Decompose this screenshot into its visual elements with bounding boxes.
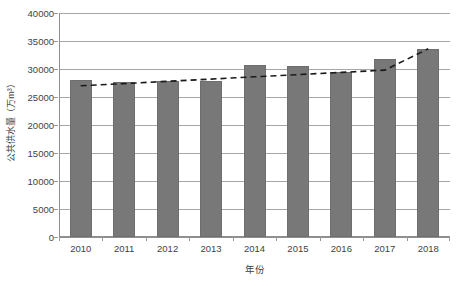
- bar-2013: [200, 81, 222, 237]
- y-axis-tick-mark: [54, 13, 58, 14]
- x-axis-tick-label: 2012: [157, 243, 178, 254]
- x-axis-tick-label: 2016: [331, 243, 352, 254]
- bar-2010: [70, 80, 92, 237]
- bar-2014: [244, 65, 266, 237]
- bar-2017: [374, 59, 396, 237]
- x-axis-tick-mark: [233, 237, 234, 241]
- x-axis-tick-label: 2018: [418, 243, 439, 254]
- y-axis-tick-mark: [54, 181, 58, 182]
- y-axis-tick-mark: [54, 209, 58, 210]
- x-axis-tick-mark: [59, 237, 60, 241]
- plot-area: [59, 13, 450, 237]
- y-axis-title-text: 公共供水量（万m³）: [4, 79, 17, 162]
- y-axis-tick-label: 30000: [28, 64, 54, 75]
- gridline: [59, 41, 450, 42]
- y-axis-tick-label: 35000: [28, 36, 54, 47]
- x-axis-title: 年份: [59, 262, 450, 276]
- bar-2012: [157, 81, 179, 237]
- y-axis-tick-label: 25000: [28, 92, 54, 103]
- x-axis-tick-label: 2011: [114, 243, 134, 254]
- bar-2016: [330, 72, 352, 237]
- y-axis-tick-mark: [54, 97, 58, 98]
- x-axis-tick-label: 2010: [70, 243, 91, 254]
- x-axis-tick-mark: [146, 237, 147, 241]
- x-axis-tick-mark: [407, 237, 408, 241]
- bar-2015: [287, 66, 309, 237]
- y-axis-tick-mark: [54, 153, 58, 154]
- y-axis-tick-label: 15000: [28, 148, 54, 159]
- y-axis-line: [59, 13, 60, 237]
- x-axis-tick-group: 201020112012201320142015201620172018: [59, 237, 450, 259]
- y-axis-tick-label: 20000: [28, 120, 54, 131]
- x-axis-tick-mark: [449, 237, 450, 241]
- y-axis-tick-label: 10000: [28, 176, 54, 187]
- y-axis-tick-mark: [54, 237, 58, 238]
- x-axis-tick-label: 2015: [287, 243, 308, 254]
- x-axis-tick-mark: [363, 237, 364, 241]
- x-axis-tick-label: 2014: [244, 243, 265, 254]
- x-axis-tick-mark: [102, 237, 103, 241]
- x-axis-tick-mark: [276, 237, 277, 241]
- y-axis-tick-label: 5000: [33, 204, 54, 215]
- bar-2011: [113, 82, 135, 237]
- y-axis-tick-mark: [54, 69, 58, 70]
- x-axis-tick-mark: [320, 237, 321, 241]
- x-axis-tick-label: 2017: [374, 243, 395, 254]
- y-axis-tick-mark: [54, 41, 58, 42]
- chart-container: 公共供水量（万m³） 05000100001500020000250003000…: [0, 0, 462, 286]
- y-axis-tick-group: 0500010000150002000025000300003500040000: [16, 0, 58, 250]
- x-axis-tick-mark: [189, 237, 190, 241]
- y-axis-tick-mark: [54, 125, 58, 126]
- gridline: [59, 13, 450, 14]
- y-axis-tick-label: 40000: [28, 8, 54, 19]
- x-axis-tick-label: 2013: [200, 243, 221, 254]
- bar-2018: [417, 49, 439, 237]
